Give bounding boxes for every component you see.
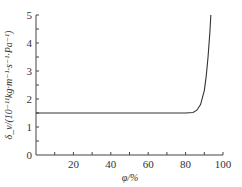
x-tick-label: 100 (215, 158, 232, 170)
y-tick-label: 1 (27, 121, 33, 133)
y-tick-label: 0 (27, 149, 33, 161)
y-tick-label: 4 (27, 37, 33, 49)
y-tick-label: 5 (27, 9, 33, 21)
x-axis-label: φ/% (122, 172, 139, 183)
ticks (36, 15, 223, 155)
x-tick-label: 40 (105, 158, 117, 170)
tick-labels: 20406080100012345 (27, 9, 232, 170)
chart: 20406080100012345 φ/% δ_v/(10⁻¹¹kg·m⁻¹·s… (0, 0, 242, 187)
x-tick-label: 60 (143, 158, 155, 170)
axes (36, 15, 223, 155)
data-line (36, 15, 211, 113)
x-tick-label: 80 (180, 158, 192, 170)
y-tick-label: 3 (27, 65, 33, 77)
x-tick-label: 20 (68, 158, 80, 170)
y-axis-label: δ_v/(10⁻¹¹kg·m⁻¹·s⁻¹·Pa⁻¹) (3, 30, 15, 139)
y-tick-label: 2 (27, 93, 33, 105)
